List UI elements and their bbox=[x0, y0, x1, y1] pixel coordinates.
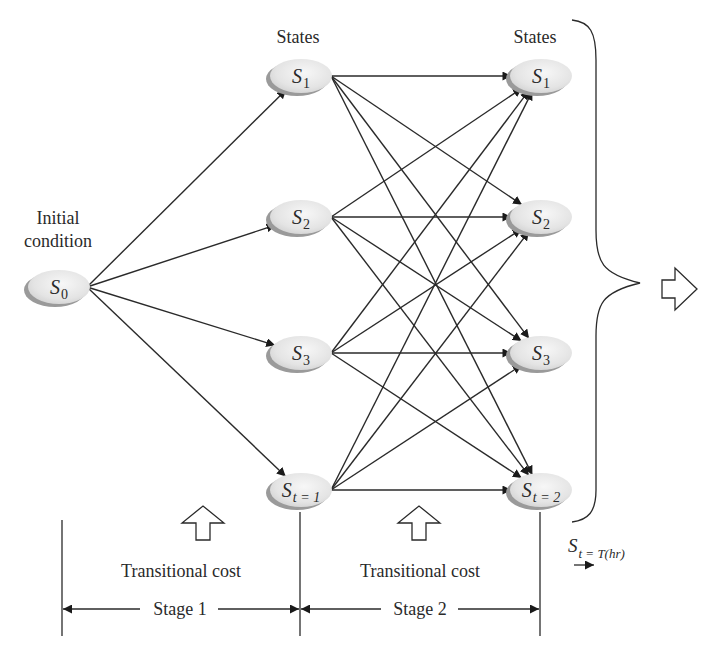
node-label-sub: 1 bbox=[303, 76, 310, 91]
node-label-main: S bbox=[292, 206, 302, 228]
node-label-sub: 2 bbox=[543, 217, 550, 232]
node-label-sub: 2 bbox=[303, 217, 310, 232]
node-label-sub: 1 bbox=[543, 76, 550, 91]
stage-2-label: Stage 2 bbox=[393, 599, 447, 619]
edge-stage1-1-to-stage2-3 bbox=[331, 76, 529, 339]
edge-stage1-1-to-stage2-4 bbox=[331, 76, 532, 475]
edge-stage1-3-to-stage2-1 bbox=[331, 90, 529, 353]
node-label-main: S bbox=[50, 276, 60, 298]
initial-condition-label-line2: condition bbox=[24, 231, 92, 251]
node-stage2-1: S1 bbox=[506, 59, 572, 96]
next-stage-hollow-arrow-icon bbox=[662, 268, 697, 310]
edge-stage1-4-to-stage2-2 bbox=[331, 231, 529, 490]
nodes-layer: S0S1S2S3St = 1S1S2S3St = 2 bbox=[24, 59, 572, 510]
node-stage2-2: S2 bbox=[506, 200, 572, 237]
edges-layer bbox=[87, 76, 532, 490]
node-initial-s0: S0 bbox=[24, 270, 90, 307]
states-brace bbox=[572, 20, 640, 522]
node-label-main: S bbox=[532, 206, 542, 228]
node-label-main: S bbox=[522, 479, 532, 501]
node-label-main: S bbox=[532, 65, 542, 87]
node-label-main: S bbox=[292, 342, 302, 364]
node-stage1-2: S2 bbox=[266, 200, 332, 237]
states-label-stage2: States bbox=[514, 27, 557, 47]
edge-stage1-3-to-stage2-4 bbox=[331, 353, 522, 478]
edge-s0-to-stage1-2 bbox=[87, 225, 276, 287]
edge-s0-to-stage1-3 bbox=[87, 287, 275, 345]
initial-condition-label-line1: Initial bbox=[37, 208, 80, 228]
final-state-sub: t = T(hr) bbox=[579, 546, 625, 561]
edge-s0-to-stage1-1 bbox=[87, 90, 286, 287]
node-label-main: S bbox=[292, 65, 302, 87]
edge-stage1-1-to-stage2-2 bbox=[331, 76, 522, 205]
node-label-main: S bbox=[282, 479, 292, 501]
transitional-cost-label-1: Transitional cost bbox=[121, 561, 241, 581]
final-state-main: S bbox=[568, 535, 578, 556]
states-label-stage1: States bbox=[277, 27, 320, 47]
final-state-label: St = T(hr) bbox=[568, 535, 625, 561]
stage-1-label: Stage 1 bbox=[153, 599, 207, 619]
transitional-cost-arrow-icon-2 bbox=[398, 506, 440, 540]
edge-s0-to-stage1-4 bbox=[87, 287, 286, 476]
edge-stage1-2-to-stage2-4 bbox=[331, 217, 529, 476]
node-label-sub: 3 bbox=[543, 353, 550, 368]
transitional-cost-arrow-icon-1 bbox=[182, 506, 224, 540]
edge-stage1-4-to-stage2-3 bbox=[331, 365, 522, 490]
transitional-cost-label-2: Transitional cost bbox=[360, 561, 480, 581]
node-label-sub: t = 2 bbox=[533, 490, 560, 505]
node-stage1-4: St = 1 bbox=[266, 473, 332, 510]
dynamic-programming-stage-diagram: S0S1S2S3St = 1S1S2S3St = 2 Initial condi… bbox=[0, 0, 716, 658]
edge-stage1-2-to-stage2-1 bbox=[331, 88, 522, 217]
node-stage1-3: S3 bbox=[266, 336, 332, 373]
node-label-sub: 3 bbox=[303, 353, 310, 368]
edge-stage1-4-to-stage2-1 bbox=[331, 91, 532, 490]
node-label-sub: t = 1 bbox=[293, 490, 320, 505]
node-stage1-1: S1 bbox=[266, 59, 332, 96]
node-label-sub: 0 bbox=[61, 287, 68, 302]
node-stage2-4: St = 2 bbox=[506, 473, 572, 510]
node-stage2-3: S3 bbox=[506, 336, 572, 373]
node-label-main: S bbox=[532, 342, 542, 364]
